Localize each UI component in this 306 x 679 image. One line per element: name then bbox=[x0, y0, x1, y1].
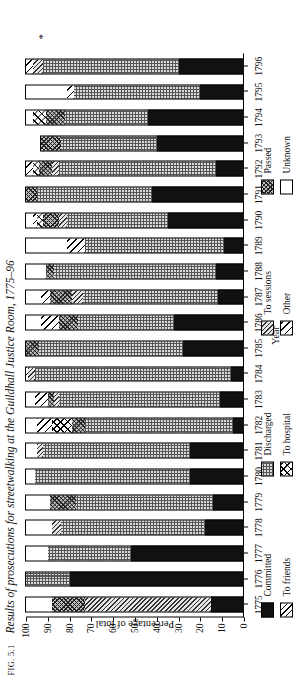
legend-swatch-tofriends bbox=[280, 602, 293, 617]
bar-1792[interactable] bbox=[26, 160, 244, 176]
y-tick bbox=[70, 617, 71, 621]
legend-item-committed[interactable]: Committed bbox=[258, 553, 277, 617]
legend-label: To friends bbox=[282, 557, 292, 596]
y-tick-label: 100 bbox=[21, 623, 31, 637]
x-tick bbox=[244, 321, 248, 322]
bar-segment-committed bbox=[190, 442, 245, 458]
legend-swatch-other bbox=[280, 320, 293, 335]
figure-page: FIG. 5.1 Results of prosecutions for str… bbox=[0, 0, 306, 679]
figure-title: Results of prosecutions for streetwalkin… bbox=[4, 260, 16, 633]
bar-1791[interactable] bbox=[26, 186, 244, 202]
bar-segment-passed bbox=[26, 340, 39, 356]
bar-segment-committed bbox=[190, 468, 245, 484]
bar-1780[interactable] bbox=[26, 468, 244, 484]
bar-segment-tosessions bbox=[52, 519, 61, 535]
bar-segment-tohospital bbox=[33, 160, 40, 176]
x-tick bbox=[244, 219, 248, 220]
bar-segment-other bbox=[26, 366, 28, 382]
bar-segment-committed bbox=[183, 340, 244, 356]
bar-1781[interactable] bbox=[26, 442, 244, 458]
legend-item-unknown[interactable]: Unknown bbox=[277, 136, 296, 194]
bar-1783[interactable] bbox=[26, 391, 244, 407]
y-tick bbox=[244, 617, 245, 621]
legend-column: PassedUnknown bbox=[258, 136, 296, 194]
bar-1793[interactable] bbox=[26, 135, 244, 151]
y-tick bbox=[179, 617, 180, 621]
legend-column: To sessionsOther bbox=[258, 271, 296, 335]
bar-segment-discharged bbox=[65, 109, 148, 125]
y-tick bbox=[26, 617, 27, 621]
bar-segment-tosessions bbox=[33, 58, 44, 74]
bar-segment-discharged bbox=[26, 571, 70, 587]
bar-top-cap bbox=[25, 186, 26, 202]
bar-segment-other bbox=[33, 212, 37, 228]
bar-segment-committed bbox=[152, 186, 244, 202]
bar-segment-unknown bbox=[26, 109, 33, 125]
bar-segment-tohospital bbox=[37, 212, 44, 228]
bar-top-cap bbox=[25, 596, 26, 612]
bar-1796[interactable] bbox=[26, 58, 244, 74]
legend-item-tohospital[interactable]: To hospital bbox=[277, 412, 296, 476]
bar-segment-committed bbox=[168, 212, 244, 228]
bar-top-cap bbox=[40, 135, 41, 151]
figure-number: FIG. 5.1 bbox=[6, 644, 16, 675]
bar-segment-discharged bbox=[76, 494, 213, 510]
bar-segment-committed bbox=[179, 58, 244, 74]
x-tick bbox=[244, 526, 248, 527]
legend-swatch-tosessions bbox=[261, 320, 274, 335]
bar-1785[interactable] bbox=[26, 340, 244, 356]
bar-segment-committed bbox=[148, 109, 244, 125]
legend-item-tofriends[interactable]: To friends bbox=[277, 553, 296, 617]
bar-1782[interactable] bbox=[26, 417, 244, 433]
bar-segment-other bbox=[26, 160, 33, 176]
bar-segment-tosessions bbox=[85, 596, 211, 612]
bar-top-cap bbox=[25, 314, 26, 330]
bar-segment-passed bbox=[50, 494, 76, 510]
legend-swatch-unknown bbox=[280, 179, 293, 194]
bar-segment-passed bbox=[39, 160, 52, 176]
bar-1787[interactable] bbox=[26, 289, 244, 305]
bar-1776[interactable] bbox=[26, 571, 244, 587]
bar-1778[interactable] bbox=[26, 519, 244, 535]
bar-1794[interactable] bbox=[26, 109, 244, 125]
legend-label: Other bbox=[282, 292, 292, 314]
bar-1786[interactable] bbox=[26, 314, 244, 330]
legend-column: CommittedTo friends bbox=[258, 553, 296, 617]
bar-1788[interactable] bbox=[26, 263, 244, 279]
bar-1775[interactable] bbox=[26, 596, 244, 612]
bar-top-cap bbox=[25, 468, 26, 484]
bar-1784[interactable] bbox=[26, 366, 244, 382]
y-tick-label: 0 bbox=[239, 623, 249, 628]
y-tick-label: 80 bbox=[65, 623, 75, 633]
legend-item-discharged[interactable]: Discharged bbox=[258, 412, 277, 476]
bar-1777[interactable] bbox=[26, 545, 244, 561]
bar-segment-discharged bbox=[85, 237, 225, 253]
legend-item-tosessions[interactable]: To sessions bbox=[258, 271, 277, 335]
bar-segment-discharged bbox=[43, 58, 178, 74]
bar-1790[interactable] bbox=[26, 212, 244, 228]
bar-1789[interactable] bbox=[26, 237, 244, 253]
bar-segment-committed bbox=[131, 545, 244, 561]
bar-1779[interactable] bbox=[26, 494, 244, 510]
y-tick bbox=[91, 617, 92, 621]
bar-top-cap bbox=[25, 58, 26, 74]
legend-label: To hospital bbox=[282, 413, 292, 455]
bar-segment-committed bbox=[224, 237, 244, 253]
x-tick bbox=[244, 603, 248, 604]
legend-swatch-committed bbox=[261, 602, 274, 617]
y-tick-label: 90 bbox=[43, 623, 53, 633]
bar-top-cap bbox=[25, 340, 26, 356]
bar-top-cap bbox=[25, 212, 26, 228]
bar-segment-committed bbox=[157, 135, 244, 151]
bar-segment-committed bbox=[220, 391, 244, 407]
bar-1795[interactable] bbox=[26, 84, 244, 100]
bar-segment-discharged bbox=[61, 519, 205, 535]
x-tick bbox=[244, 449, 248, 450]
bar-top-cap bbox=[25, 417, 26, 433]
legend-swatch-passed bbox=[261, 179, 274, 194]
bar-segment-discharged bbox=[35, 468, 190, 484]
x-tick bbox=[244, 398, 248, 399]
legend-item-other[interactable]: Other bbox=[277, 271, 296, 335]
legend-item-passed[interactable]: Passed bbox=[258, 136, 277, 194]
asterisk-note: * bbox=[36, 34, 48, 40]
